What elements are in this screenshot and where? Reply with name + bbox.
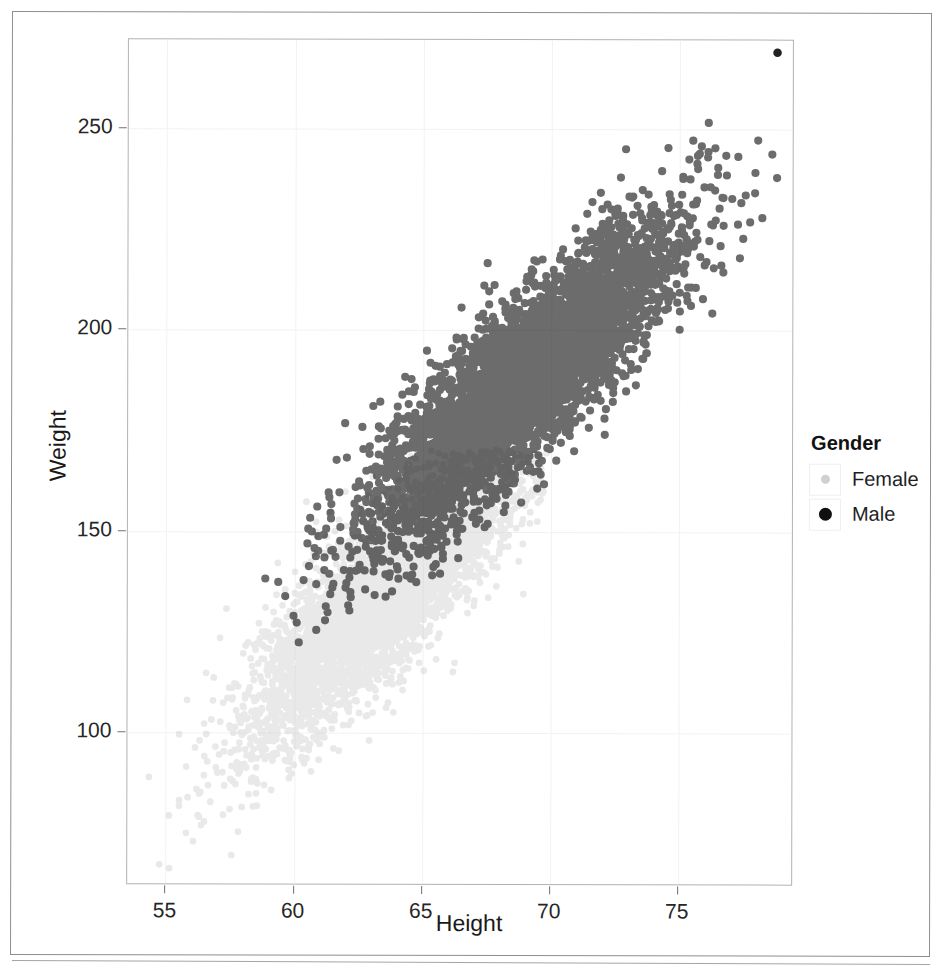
scatter-points-layer [127,39,793,884]
y-tick-mark [118,530,126,531]
plot-panel [126,38,794,885]
legend-item-male[interactable]: Male [809,497,939,532]
legend-items: FemaleMale [809,462,939,532]
legend-marker-dot-icon [821,475,830,484]
y-axis-title: Weight [44,376,71,516]
legend-key-box [809,463,841,495]
legend-item-female[interactable]: Female [809,462,939,497]
figure-frame: 250200150100 Weight 5560657075 Height Ge… [10,11,932,957]
x-tick-mark [165,885,166,893]
y-tick-mark [117,731,125,732]
x-tick-label: 55 [129,898,199,922]
legend-key-box [809,498,841,530]
x-axis-ticks: 5560657075 [13,12,931,14]
legend-item-label: Male [852,503,895,526]
legend-title: Gender [811,432,939,455]
caption-rule [12,960,930,965]
y-tick-label: 100 [51,718,111,742]
x-tick-mark [677,886,678,894]
y-tick-label: 200 [52,315,112,339]
x-tick-mark [293,886,294,894]
legend-item-label: Female [852,468,919,491]
y-tick-label: 250 [53,114,113,138]
series-female [145,446,550,872]
data-points [145,446,550,872]
x-tick-mark [421,886,422,894]
legend: Gender FemaleMale [809,432,939,532]
outlier-point [773,48,782,57]
y-tick-mark [118,328,126,329]
y-tick-label: 150 [52,517,112,541]
y-axis-ticks: 250200150100 [13,12,931,14]
x-tick-label: 75 [642,899,712,923]
x-tick-mark [549,886,550,894]
y-tick-mark [119,127,127,128]
legend-marker-dot-icon [818,508,831,521]
scatter-plot-canvas [127,39,793,884]
figure-caption [14,966,614,975]
x-tick-label: 60 [258,899,328,923]
x-axis-title: Height [389,910,549,937]
